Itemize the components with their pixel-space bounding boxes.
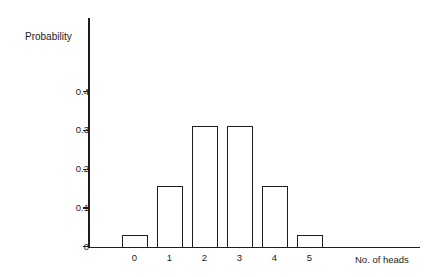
x-tick-label-4: 4 [260, 252, 290, 264]
x-axis-line [88, 247, 420, 249]
x-tick-label-3: 3 [225, 252, 255, 264]
bar-2 [192, 126, 218, 247]
x-axis-title: No. of heads [355, 254, 409, 266]
y-tick-label-0: 0 [63, 242, 89, 252]
y-tick-label-wrap-3: 0.3 [52, 125, 89, 135]
bar-5 [297, 235, 323, 247]
y-tick-label-1: 0.1 [63, 203, 89, 213]
y-tick-label-wrap-2: 0.2 [52, 164, 89, 174]
x-tick-label-0: 0 [120, 252, 150, 264]
x-tick-label-2: 2 [190, 252, 220, 264]
y-tick-label-4: 0.4 [63, 87, 89, 97]
y-tick-label-2: 0.2 [63, 164, 89, 174]
y-tick-label-3: 0.3 [63, 125, 89, 135]
bar-1 [157, 186, 183, 247]
bar-0 [122, 235, 148, 247]
y-tick-label-wrap-1: 0.1 [52, 203, 89, 213]
x-tick-label-5: 5 [295, 252, 325, 264]
plot-area: 0 0.1 0.2 0.3 0.4 0 1 2 3 4 5 [0, 0, 429, 277]
x-tick-label-1: 1 [155, 252, 185, 264]
y-tick-label-wrap-4: 0.4 [52, 87, 89, 97]
y-tick-label-wrap-0: 0 [52, 242, 89, 252]
bar-3 [227, 126, 253, 247]
bar-4 [262, 186, 288, 247]
probability-distribution-chart: Probability 0 0.1 0.2 0.3 0.4 [0, 0, 429, 277]
